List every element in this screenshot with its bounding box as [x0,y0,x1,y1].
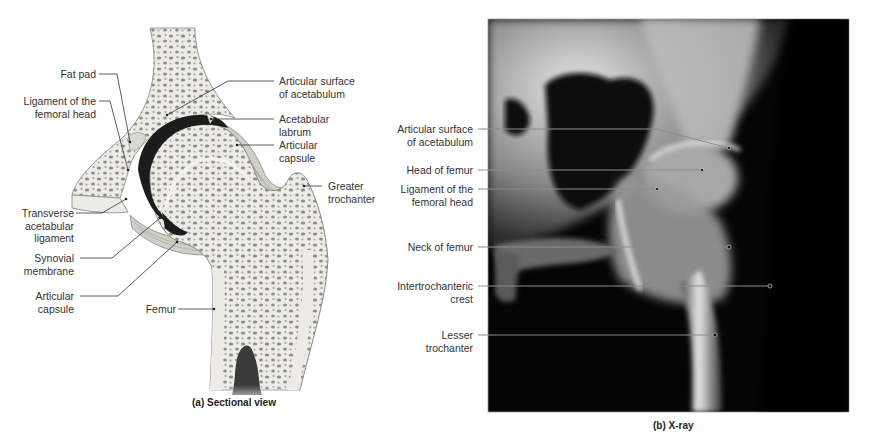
xray-label-head-of-femur: Head of femur [406,164,473,177]
xray-panel: Articular surface of acetabulum Head of … [380,0,875,441]
xray-label-intertrochanteric-crest: Intertrochanteric crest [397,280,473,305]
label-articular-surface-acetabulum: Articular surface of acetabulum [279,75,355,100]
caption-sectional-view: (a) Sectional view [192,397,276,408]
xray-label-ligament-femoral-head: Ligament of the femoral head [401,183,473,208]
label-transverse-acetabular-ligament: Transverse acetabular ligament [22,207,74,245]
xray-label-lesser-trochanter: Lesser trochanter [426,329,473,354]
xray-label-neck-of-femur: Neck of femur [408,241,473,254]
label-greater-trochanter: Greater trochanter [328,180,375,205]
xray-label-articular-surface-acetabulum: Articular surface of acetabulum [397,123,473,148]
label-articular-capsule-upper: Articular capsule [279,139,318,164]
label-synovial-membrane: Synovial membrane [24,252,74,277]
caption-xray: (b) X-ray [653,420,694,431]
label-fat-pad: Fat pad [60,68,96,81]
label-femur: Femur [146,303,176,316]
label-ligament-femoral-head: Ligament of the femoral head [24,95,96,120]
label-acetabular-labrum: Acetabular labrum [279,113,329,138]
label-articular-capsule-lower: Articular capsule [35,290,74,315]
hip-xray-image [380,0,875,441]
